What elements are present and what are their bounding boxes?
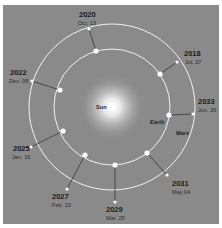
opposition-label-2029: 2029 Mar. 25 — [106, 205, 125, 221]
svg-text:2020: 2020 — [79, 10, 96, 19]
svg-text:2027: 2027 — [52, 192, 69, 201]
svg-text:Mar. 25: Mar. 25 — [106, 215, 125, 221]
opposition-label-2031: 2031 May 04 — [172, 179, 190, 195]
opposition-label-2020: 2020 Oct. 13 — [78, 10, 96, 26]
svg-text:May 04: May 04 — [172, 189, 190, 195]
opposition-label-2025: 2025 Jan. 16 — [12, 144, 30, 160]
svg-text:2022: 2022 — [10, 68, 27, 77]
opposition-label-2033: 2033 Jun. 26 — [198, 97, 216, 113]
svg-text:2033: 2033 — [198, 97, 215, 106]
svg-text:Dec. 08: Dec. 08 — [9, 78, 28, 84]
sun-label: Sun — [96, 104, 107, 110]
opposition-label-2022: 2022 Dec. 08 — [9, 68, 28, 84]
svg-text:2029: 2029 — [106, 205, 123, 214]
svg-text:Jan. 16: Jan. 16 — [12, 154, 30, 160]
mars-opposition-diagram: Sun Earth Mars 2018 Jul. 27 2020 Oct. 13… — [0, 0, 222, 228]
svg-text:Feb. 19: Feb. 19 — [52, 202, 71, 208]
opposition-label-2027: 2027 Feb. 19 — [52, 192, 71, 208]
svg-text:2031: 2031 — [172, 179, 189, 188]
svg-text:2025: 2025 — [13, 144, 30, 153]
svg-text:Oct. 13: Oct. 13 — [78, 20, 96, 26]
mars-label: Mars — [176, 130, 189, 136]
svg-text:Jun. 26: Jun. 26 — [198, 107, 216, 113]
sun-icon — [108, 103, 116, 111]
earth-label: Earth — [150, 119, 165, 125]
svg-text:2018: 2018 — [184, 49, 201, 58]
opposition-label-2018: 2018 Jul. 27 — [184, 49, 201, 65]
svg-text:Jul. 27: Jul. 27 — [185, 59, 201, 65]
